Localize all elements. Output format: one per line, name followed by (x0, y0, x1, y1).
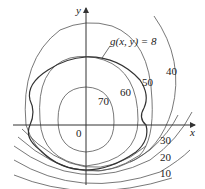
constraint-label: g(x, y) = 8 (110, 35, 157, 48)
x-axis-label: x (189, 126, 195, 138)
contour-10 (14, 175, 172, 189)
y-axis-label: y (75, 4, 81, 16)
constraint-label-pointer (102, 46, 110, 58)
contour-label-20: 20 (160, 151, 172, 163)
constraint-curve (28, 57, 147, 170)
contour-label-30: 30 (160, 134, 172, 146)
contour-60 (40, 56, 138, 166)
contour-extra-2 (22, 129, 146, 167)
contour-label-70: 70 (98, 95, 110, 107)
contour-label-50: 50 (142, 76, 154, 88)
contour-label-10: 10 (160, 167, 172, 179)
origin-label: 0 (76, 127, 82, 139)
contour-label-60: 60 (120, 86, 132, 98)
contour-label-40: 40 (166, 65, 178, 77)
contour-plot: y x 0 g(x, y) = 8 70 60 50 40 30 20 10 (0, 0, 205, 189)
